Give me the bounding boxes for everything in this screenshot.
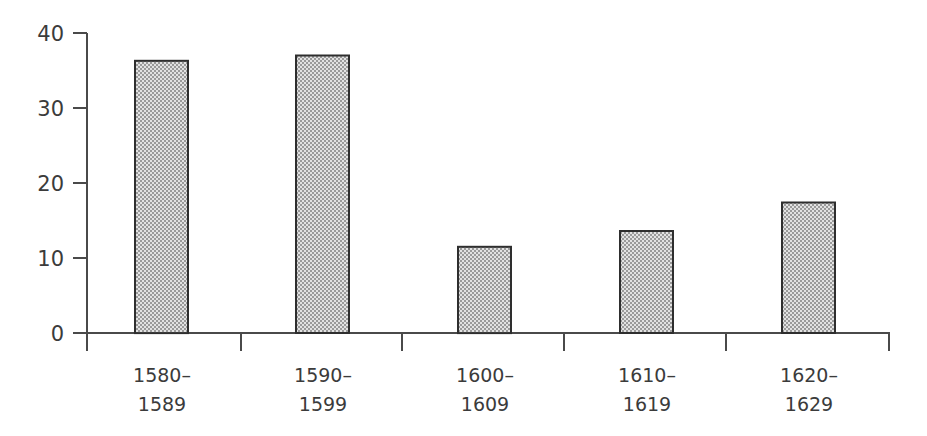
y-tick-label-0: 0 xyxy=(51,322,64,346)
bar-1620-1629[interactable] xyxy=(782,203,835,334)
y-tick-label-40: 40 xyxy=(37,22,64,46)
x-label-1620-1629-line1: 1620– xyxy=(780,364,838,386)
x-label-1600-1609-line2: 1609 xyxy=(461,393,509,415)
x-label-1610-1619-line1: 1610– xyxy=(618,364,676,386)
bar-chart-figure: 40 30 20 10 0 1580– 1589 xyxy=(0,0,927,436)
bar-1600-1609[interactable] xyxy=(458,247,511,333)
x-label-1610-1619-line2: 1619 xyxy=(623,393,671,415)
y-tick-label-10: 10 xyxy=(37,247,64,271)
y-tick-label-20: 20 xyxy=(37,172,64,196)
x-label-1600-1609-line1: 1600– xyxy=(456,364,514,386)
x-label-1580-1589-line2: 1589 xyxy=(138,393,186,415)
x-label-1620-1629-line2: 1629 xyxy=(785,393,833,415)
x-label-1580-1589-line1: 1580– xyxy=(133,364,191,386)
bar-1610-1619[interactable] xyxy=(620,231,673,333)
y-tick-label-30: 30 xyxy=(37,97,64,121)
x-label-1590-1599-line2: 1599 xyxy=(299,393,347,415)
bar-1590-1599[interactable] xyxy=(296,56,349,334)
x-label-1590-1599-line1: 1590– xyxy=(294,364,352,386)
bar-1580-1589[interactable] xyxy=(135,61,188,333)
chart-canvas: 40 30 20 10 0 1580– 1589 xyxy=(0,0,927,436)
